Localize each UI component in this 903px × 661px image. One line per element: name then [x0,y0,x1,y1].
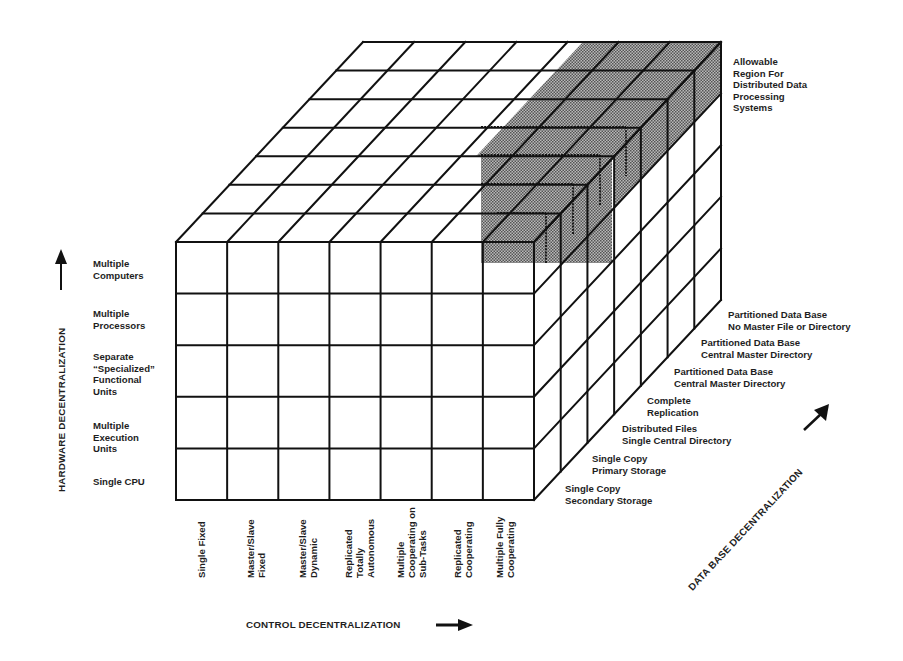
database-level-7: Partitioned Data Base No Master File or … [728,309,851,332]
hardware-level-1: Single CPU [93,476,145,488]
allowable-region-shading [476,42,721,263]
database-level-4: Complete Replication [647,395,699,418]
hardware-level-3: Separate “Specialized” Functional Units [93,351,155,397]
arrow-up-right-icon [804,404,829,430]
hardware-level-5: Multiple Computers [93,258,144,281]
hardware-level-2: Multiple Execution Units [93,420,139,455]
control-level-1: Single Fixed [196,521,207,578]
arrow-up-icon [55,249,67,290]
hardware-axis-title: HARDWARE DECENTRALIZATION [56,328,67,492]
control-level-7: Multiple Fully Cooperating [494,517,516,578]
hardware-level-4: Multiple Processors [93,308,145,331]
control-level-6: Replicated Cooperating [452,522,474,579]
control-level-3: Master/Slave Dynamic [297,519,319,578]
database-level-5: Partitioned Data Base Central Master Dir… [674,366,785,389]
control-axis-title: CONTROL DECENTRALIZATION [246,619,401,630]
control-level-5: Multiple Cooperating on Sub-Tasks [395,507,428,578]
arrow-right-icon [436,619,473,631]
database-level-3: Distributed Files Single Central Directo… [622,423,731,446]
database-level-6: Partitioned Data Base Central Master Dir… [701,337,812,360]
allowable-region-label: Allowable Region For Distributed Data Pr… [733,56,807,114]
database-level-2: Single Copy Primary Storage [592,453,666,476]
control-level-2: Master/Slave Fixed [245,519,267,578]
database-level-1: Single Copy Secondary Storage [565,483,652,506]
control-level-4: Replicated Totally Autonomous [343,519,376,578]
